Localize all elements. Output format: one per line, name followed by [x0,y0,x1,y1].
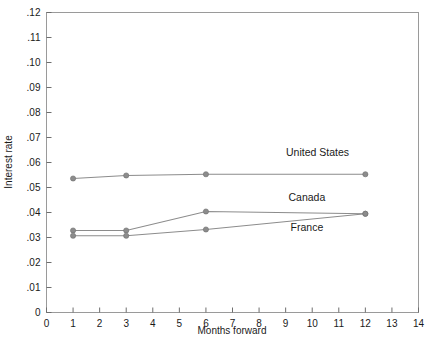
data-point [203,209,208,214]
y-axis-tick-label: .07 [27,132,41,143]
series-label-france: France [291,221,324,233]
series-label-group: United StatesCanadaFrance [286,146,349,232]
series-line [73,174,365,178]
y-axis-tick-label: .04 [27,207,41,218]
data-point [363,172,368,177]
data-point [203,227,208,232]
y-axis-tick-label: 0 [35,307,41,318]
data-point [70,228,75,233]
y-axis-tick-label: .09 [27,82,41,93]
series-united-states [70,172,367,181]
data-point [124,173,129,178]
data-point [363,211,368,216]
y-axis-tick-label: .10 [27,57,41,68]
x-axis-tick-label: 5 [177,318,183,329]
x-axis-tick-label: 4 [150,318,156,329]
x-axis-tick-label: 13 [386,318,398,329]
x-axis-tick-label: 14 [413,318,425,329]
y-axis-tick-label: .11 [27,32,41,43]
x-axis-tick-label: 3 [123,318,129,329]
x-axis-tick-label: 12 [360,318,372,329]
y-axis-tick-label: .03 [27,232,41,243]
y-axis-tick-label: .02 [27,257,41,268]
series-group [70,172,367,239]
data-point [70,233,75,238]
x-axis-tick-label: 0 [44,318,50,329]
y-axis-tick-label: .08 [27,107,41,118]
x-axis-title: Months forward [198,325,267,336]
x-axis-tick-label: 11 [334,318,345,329]
data-point [124,228,129,233]
chart-canvas: 0.01.02.03.04.05.06.07.08.09.10.11.12 01… [0,0,434,340]
x-axis-tick-label: 9 [283,318,289,329]
series-france [70,211,367,238]
y-axis-tick-group: 0.01.02.03.04.05.06.07.08.09.10.11.12 [27,7,52,318]
x-axis-tick-label: 10 [307,318,319,329]
data-point [124,233,129,238]
x-axis-tick-label: 1 [70,318,76,329]
series-canada [70,209,367,233]
x-axis-tick-label: 2 [97,318,103,329]
y-axis-tick-label: .12 [27,7,41,18]
data-point [203,172,208,177]
y-axis-tick-label: .01 [27,282,41,293]
y-axis-tick-label: .06 [27,157,41,168]
interest-rate-chart: 0.01.02.03.04.05.06.07.08.09.10.11.12 01… [0,0,434,340]
plot-frame [47,13,419,313]
series-label-canada: Canada [289,191,326,203]
data-point [70,176,75,181]
y-axis-tick-label: .05 [27,182,41,193]
y-axis-title: Interest rate [3,135,14,189]
series-label-united-states: United States [286,146,349,158]
